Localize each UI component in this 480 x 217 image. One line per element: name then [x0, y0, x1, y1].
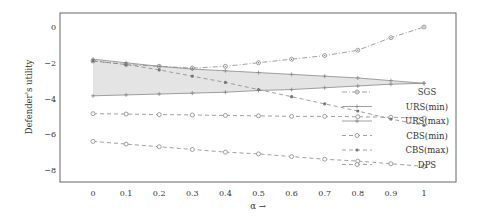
series-layer [91, 25, 426, 168]
data-point-sgs-dot [357, 50, 358, 51]
data-point-cbs-min [290, 114, 294, 118]
x-tick-label: 1 [421, 189, 426, 198]
legend-item-sgs: SGS [342, 87, 436, 97]
data-point-sgs-dot [291, 58, 292, 59]
data-point-cbs-min [223, 113, 227, 117]
data-point-cbs-max [125, 63, 128, 66]
data-point-dps [190, 147, 194, 151]
data-point-dps [290, 155, 294, 159]
legend-marker-urs-max [355, 119, 359, 123]
chart: 00.10.20.30.40.50.60.70.80.91 0−2−4−6−8 … [0, 0, 480, 217]
data-point-cbs-min [91, 112, 95, 116]
data-point-cbs-max [356, 109, 359, 112]
y-tick-label: −4 [44, 95, 56, 104]
y-ticks: 0−2−4−6−8 [44, 23, 56, 175]
data-point-cbs-min [257, 114, 261, 118]
data-point-cbs-min [157, 113, 161, 117]
x-tick-label: 0.2 [153, 189, 166, 198]
legend-marker-urs-min [355, 105, 359, 109]
plot-frame [60, 13, 456, 182]
data-point-dps [323, 157, 327, 161]
data-point-cbs-max [224, 81, 227, 84]
y-axis-label: Defender's utility [24, 59, 34, 134]
data-point-sgs-dot [423, 26, 424, 27]
data-point-sgs-dot [258, 62, 259, 63]
legend-item-cbs-min: CBS(min) [342, 131, 448, 141]
data-point-cbs-max [91, 59, 94, 62]
x-axis-label: α → [250, 201, 266, 211]
y-tick-label: 0 [51, 23, 56, 32]
legend: SGSURS(min)URS(max)CBS(min)CBS(max)DPS [342, 87, 449, 170]
data-point-cbs-max [257, 88, 260, 91]
y-tick-label: −6 [44, 130, 56, 139]
y-tick-label: −2 [44, 59, 56, 68]
data-point-cbs-min [124, 112, 128, 116]
legend-label-urs-max: URS(max) [405, 116, 449, 126]
legend-marker-dps [355, 163, 359, 167]
data-point-cbs-min [190, 113, 194, 117]
data-point-cbs-min [323, 114, 327, 118]
data-point-cbs-max [191, 75, 194, 78]
legend-label-cbs-max: CBS(max) [405, 145, 448, 155]
legend-marker-cbs-min [355, 134, 359, 138]
x-tick-label: 0.8 [351, 189, 364, 198]
data-point-sgs-dot [324, 55, 325, 56]
data-point-dps [389, 162, 393, 166]
x-tick-label: 0.1 [120, 189, 133, 198]
data-point-cbs-max [290, 95, 293, 98]
x-tick-label: 0.5 [252, 189, 265, 198]
x-tick-label: 0.7 [318, 189, 331, 198]
legend-label-dps: DPS [418, 160, 437, 170]
data-point-sgs-dot [225, 66, 226, 67]
data-point-cbs-max [158, 68, 161, 71]
x-tick-label: 0.6 [285, 189, 298, 198]
legend-label-cbs-min: CBS(min) [406, 131, 447, 141]
data-point-dps [124, 142, 128, 146]
legend-item-cbs-max: CBS(max) [342, 145, 449, 155]
series-sgs [91, 25, 426, 70]
x-tick-label: 0 [90, 189, 95, 198]
legend-marker-cbs-max [355, 148, 358, 151]
y-tick-label: −8 [44, 166, 56, 175]
x-tick-label: 0.9 [385, 189, 398, 198]
series-cbs-min [91, 112, 426, 120]
legend-label-urs-min: URS(min) [406, 102, 448, 112]
data-point-sgs-dot [390, 37, 391, 38]
data-point-cbs-max [323, 102, 326, 105]
series-dps [91, 139, 426, 168]
data-point-dps [257, 152, 261, 156]
data-point-cbs-min [356, 115, 360, 119]
x-tick-label: 0.4 [219, 189, 232, 198]
x-tick-label: 0.3 [186, 189, 199, 198]
x-ticks: 00.10.20.30.40.50.60.70.80.91 [90, 189, 426, 198]
legend-marker-sgs-dot [356, 91, 357, 92]
data-point-urs-max [422, 81, 426, 85]
data-point-dps [157, 145, 161, 149]
legend-label-sgs: SGS [418, 87, 437, 97]
data-point-dps [223, 150, 227, 154]
data-point-dps [91, 139, 95, 143]
data-point-cbs-max [389, 117, 392, 120]
